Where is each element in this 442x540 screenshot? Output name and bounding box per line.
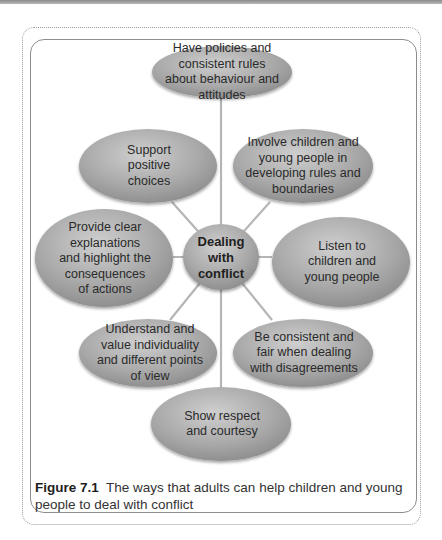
center-node-label: Dealing with conflict — [185, 238, 257, 278]
node-bottom-label: Show respect and courtesy — [172, 404, 272, 444]
node-top-label: Have policies and consistent rules about… — [156, 48, 288, 96]
figure-caption: Figure 7.1 The ways that adults can help… — [35, 479, 405, 513]
node-right-label: Listen to children and young people — [290, 242, 394, 282]
node-upper-left-label: Support positive choices — [104, 146, 194, 186]
node-left-label: Provide clear explanations and highlight… — [52, 218, 158, 300]
figure-number: Figure 7.1 — [35, 480, 99, 495]
node-lower-right-label: Be consistent and fair when dealing with… — [240, 328, 368, 378]
node-upper-right-label: Involve children and young people in dev… — [238, 141, 368, 191]
node-lower-left-label: Understand and value individuality and d… — [86, 328, 214, 378]
